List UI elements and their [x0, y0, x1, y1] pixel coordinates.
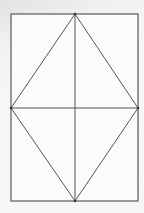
right-vertex: [137, 107, 140, 110]
bottom-vertex: [74, 200, 77, 203]
left-vertex: [10, 107, 13, 110]
diagram-canvas: [0, 0, 144, 213]
top-vertex: [74, 13, 77, 16]
rhombus-in-rectangle-diagram: [0, 0, 144, 213]
